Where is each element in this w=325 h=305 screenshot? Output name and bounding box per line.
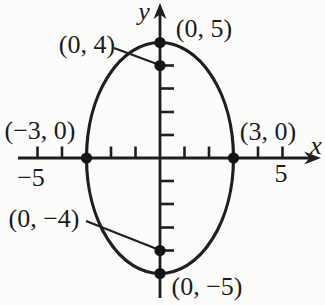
x-tick-label-neg5: −5	[17, 163, 45, 192]
point-marker-0-neg5	[154, 268, 165, 279]
x-axis-label: x	[309, 131, 322, 160]
point-marker-3-0	[228, 152, 239, 163]
ellipse-graph-figure: y x (0, 5) (0, 4) (−3, 0) (3, 0) (0, −4)…	[0, 0, 325, 305]
point-marker-0-4	[154, 60, 165, 71]
point-label-0-neg5: (0, −5)	[172, 272, 243, 301]
point-marker-neg3-0	[81, 152, 92, 163]
leader-line-0-neg4	[86, 221, 157, 249]
point-label-0-5: (0, 5)	[176, 14, 232, 43]
point-label-neg3-0: (−3, 0)	[5, 116, 76, 145]
point-label-0-neg4: (0, −4)	[9, 204, 80, 233]
point-label-0-4: (0, 4)	[59, 30, 115, 59]
point-label-3-0: (3, 0)	[240, 117, 296, 146]
x-tick-label-5: 5	[275, 159, 288, 188]
y-axis-label: y	[135, 0, 150, 26]
graph-canvas: y x (0, 5) (0, 4) (−3, 0) (3, 0) (0, −4)…	[0, 0, 325, 305]
point-marker-0-neg4	[154, 245, 165, 256]
point-marker-0-5	[154, 37, 165, 48]
